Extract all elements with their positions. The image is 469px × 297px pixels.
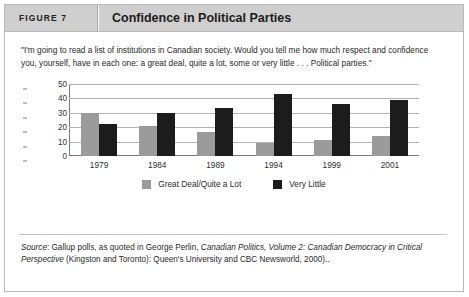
legend-label: Very Little	[289, 179, 325, 189]
bar-group	[245, 84, 303, 156]
chart-legend: Great Deal/Quite a LotVery Little	[5, 179, 463, 189]
bar-group	[186, 84, 244, 156]
figure-header: FIGURE 7 Confidence in Political Parties	[5, 5, 463, 32]
x-axis-label: 2001	[361, 160, 419, 170]
source-tail: (Kingston and Toronto): Queen's Universi…	[64, 255, 330, 264]
y-axis-tick-mark	[23, 132, 27, 133]
y-axis-tick-label: 50	[27, 80, 67, 89]
bar-1984-great-deal	[139, 126, 157, 156]
source-note: Source: Gallup polls, as quoted in Georg…	[21, 242, 445, 267]
bar-2001-great-deal	[372, 136, 390, 156]
bar-group	[70, 84, 128, 156]
legend-item: Great Deal/Quite a Lot	[142, 179, 241, 189]
bar-group	[361, 84, 419, 156]
bar-1994-very-little	[274, 94, 292, 156]
legend-label: Great Deal/Quite a Lot	[158, 179, 241, 189]
bar-1979-great-deal	[81, 113, 99, 156]
y-axis-tick-mark	[23, 103, 27, 104]
source-prefix: Source	[21, 243, 47, 252]
x-axis-labels: 197919841989199419992001	[70, 160, 419, 170]
source-rest: : Gallup polls, as quoted in George Perl…	[47, 243, 201, 252]
x-axis-label: 1979	[70, 160, 128, 170]
bar-group	[128, 84, 186, 156]
legend-item: Very Little	[273, 179, 325, 189]
figure-body: "I'm going to read a list of institution…	[5, 32, 463, 293]
bar-groups	[70, 84, 419, 156]
figure-title: Confidence in Political Parties	[99, 5, 463, 31]
y-axis-tick-label: 30	[27, 108, 67, 117]
bar-chart: 01020304050 197919841989199419992001 Gre…	[5, 82, 463, 222]
x-axis-label: 1999	[303, 160, 361, 170]
figure-container: FIGURE 7 Confidence in Political Parties…	[4, 4, 464, 292]
plot-area: 01020304050	[69, 84, 419, 156]
bar-group	[303, 84, 361, 156]
x-axis-label: 1984	[128, 160, 186, 170]
source-divider	[19, 234, 447, 235]
y-axis-tick-label: 40	[27, 94, 67, 103]
figure-number-label: FIGURE 7	[5, 5, 97, 31]
x-axis-label: 1989	[186, 160, 244, 170]
y-axis-tick-mark	[23, 161, 27, 162]
x-axis-label: 1994	[245, 160, 303, 170]
y-axis-tick-mark	[23, 146, 27, 147]
y-axis-tick-mark	[23, 117, 27, 118]
y-axis-tick-label: 10	[27, 137, 67, 146]
bar-2001-very-little	[390, 100, 408, 156]
y-axis-tick-label: 20	[27, 123, 67, 132]
y-axis-tick-mark	[23, 89, 27, 90]
survey-question-quote: "I'm going to read a list of institution…	[21, 44, 445, 69]
bar-1999-great-deal	[314, 140, 332, 156]
bar-1999-very-little	[332, 104, 350, 156]
bar-1979-very-little	[99, 124, 117, 156]
legend-swatch	[142, 180, 151, 189]
bar-1994-great-deal	[256, 143, 274, 156]
bar-1984-very-little	[157, 113, 175, 156]
bar-1989-great-deal	[197, 132, 215, 156]
bar-1989-very-little	[215, 108, 233, 156]
y-axis-tick-label: 0	[27, 152, 67, 161]
legend-swatch	[273, 180, 282, 189]
